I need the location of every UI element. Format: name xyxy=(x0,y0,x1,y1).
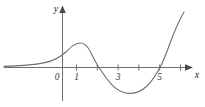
graph-figure: 1 3 5 0 y x xyxy=(0,0,205,107)
origin-label: 0 xyxy=(55,72,60,82)
x-axis-arrow-icon xyxy=(185,64,193,71)
y-axis-label: y xyxy=(53,3,59,14)
x-tick-label-5: 5 xyxy=(157,72,162,82)
x-axis-label: x xyxy=(194,69,200,80)
x-tick-label-1: 1 xyxy=(74,72,79,82)
function-plot: 1 3 5 0 y x xyxy=(0,0,205,107)
y-axis-arrow-icon xyxy=(59,6,66,14)
x-tick-label-3: 3 xyxy=(115,72,121,82)
